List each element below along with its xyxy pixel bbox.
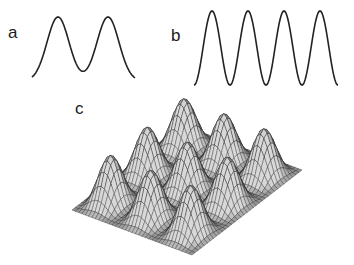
figure-canvas: [0, 0, 354, 265]
panel-c-surface: [72, 99, 302, 255]
panel-b-curve: [194, 11, 338, 85]
panel-a-curve: [32, 17, 135, 78]
